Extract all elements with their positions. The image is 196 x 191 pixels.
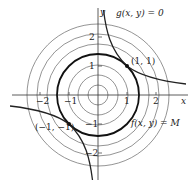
point-1-1 (125, 64, 129, 68)
y-tick-label: −1 (85, 119, 98, 129)
y-tick-label: 2 (89, 32, 95, 42)
x-tick-label: −1 (64, 96, 77, 106)
x-tick-label: 2 (153, 96, 159, 106)
point-neg1-neg1-label: (−1, −1) (35, 122, 74, 132)
y-tick-label: −2 (85, 148, 98, 158)
y-tick-label: 1 (89, 61, 95, 71)
x-tick-label: 1 (124, 96, 130, 106)
y-axis-label: y (99, 7, 106, 17)
x-axis-label: x (181, 96, 186, 106)
lagrange-diagram: −2 −1 1 2 2 1 −1 −2 x y g(x, y) = 0 (1, … (0, 0, 196, 191)
constraint-label: g(x, y) = 0 (116, 8, 164, 18)
point-1-1-label: (1, 1) (131, 56, 155, 66)
level-curve-label: f(x, y) = M (130, 118, 180, 128)
x-tick-label: −2 (36, 96, 49, 106)
